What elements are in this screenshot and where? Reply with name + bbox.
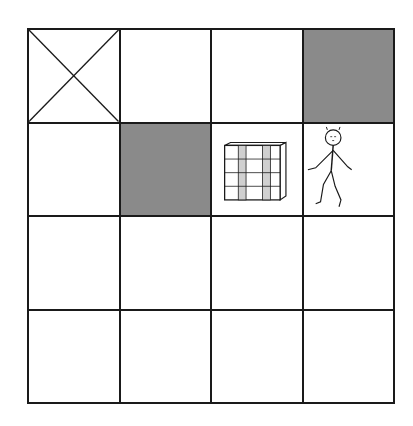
cell-r1-c1-shaded — [120, 123, 212, 217]
cell-r1-c2-box — [211, 123, 303, 217]
cell-r0-c0-blocked — [28, 29, 120, 123]
cell-r0-c1 — [120, 29, 212, 123]
cell-r2-c3 — [303, 216, 395, 310]
grid-world — [27, 28, 395, 404]
stick-figure-icon — [304, 124, 394, 216]
cell-r0-c3-shaded — [303, 29, 395, 123]
crate-icon — [212, 124, 302, 216]
x-mark-icon — [29, 30, 119, 122]
cell-r2-c0 — [28, 216, 120, 310]
cell-r3-c0 — [28, 310, 120, 404]
cell-r2-c1 — [120, 216, 212, 310]
cell-r3-c1 — [120, 310, 212, 404]
cell-r2-c2 — [211, 216, 303, 310]
cell-r0-c2 — [211, 29, 303, 123]
cell-r1-c0 — [28, 123, 120, 217]
cell-r1-c3-agent — [303, 123, 395, 217]
cell-r3-c2 — [211, 310, 303, 404]
cell-r3-c3 — [303, 310, 395, 404]
